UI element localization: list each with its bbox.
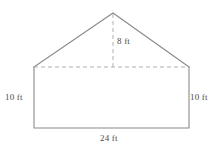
house-shape-diagram (0, 0, 220, 149)
figure-canvas: 10 ft 10 ft 24 ft 8 ft (0, 0, 220, 149)
roof-outline (34, 13, 189, 67)
right-wall-dimension-label: 10 ft (190, 92, 208, 102)
rectangle-body-outline (34, 67, 189, 128)
roof-height-dimension-label: 8 ft (117, 36, 130, 46)
base-dimension-label: 24 ft (100, 133, 118, 143)
left-wall-dimension-label: 10 ft (5, 92, 23, 102)
